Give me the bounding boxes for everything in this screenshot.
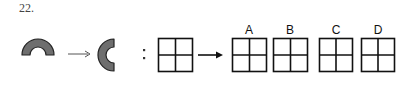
option-label-c: C bbox=[319, 23, 353, 37]
colon-separator bbox=[143, 49, 145, 59]
arch-right-shape bbox=[98, 39, 114, 71]
arch-down-shape bbox=[22, 39, 54, 55]
bold-arrow-icon bbox=[198, 52, 223, 59]
query-grid bbox=[159, 39, 193, 72]
option-label-a: A bbox=[232, 23, 266, 37]
option-label-d: D bbox=[361, 23, 395, 37]
analogy-figure bbox=[0, 0, 414, 85]
thin-arrow-icon bbox=[68, 51, 90, 57]
option-grid-d[interactable] bbox=[362, 39, 395, 72]
option-grid-a[interactable] bbox=[233, 39, 267, 72]
option-grid-b[interactable] bbox=[274, 39, 308, 72]
option-grid-c[interactable] bbox=[320, 39, 353, 72]
option-label-b: B bbox=[273, 23, 307, 37]
